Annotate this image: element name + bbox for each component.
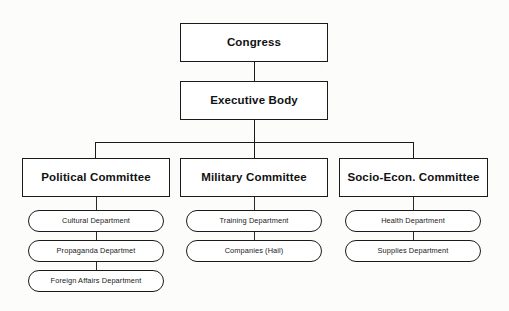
- connector-military-to-dept-1: [254, 196, 255, 211]
- node-training-department-label: Training Department: [216, 217, 293, 225]
- node-companies-hail[interactable]: Companies (Hail): [186, 240, 322, 262]
- node-cultural-department[interactable]: Cultural Department: [28, 210, 164, 232]
- connector-drop-socio-econ: [413, 142, 414, 159]
- node-training-department[interactable]: Training Department: [186, 210, 322, 232]
- connector-drop-political: [95, 142, 96, 159]
- node-health-department[interactable]: Health Department: [345, 210, 481, 232]
- connector-congress-to-executive: [254, 61, 255, 82]
- node-propaganda-department[interactable]: Propaganda Departmet: [28, 240, 164, 262]
- node-executive-body-label: Executive Body: [206, 94, 302, 107]
- node-supplies-department[interactable]: Supplies Department: [345, 240, 481, 262]
- node-socio-econ-committee-label: Socio-Econ. Committee: [343, 171, 483, 184]
- connector-committee-bus: [95, 142, 414, 143]
- node-congress[interactable]: Congress: [180, 23, 328, 62]
- node-congress-label: Congress: [223, 36, 285, 49]
- node-political-committee[interactable]: Political Committee: [22, 158, 170, 197]
- node-health-department-label: Health Department: [377, 217, 449, 225]
- org-chart-canvas: Congress Executive Body Political Commit…: [0, 0, 509, 311]
- node-foreign-affairs-department[interactable]: Foreign Affairs Department: [28, 270, 164, 292]
- node-propaganda-department-label: Propaganda Departmet: [53, 247, 140, 255]
- connector-socio-econ-to-dept-1: [413, 196, 414, 211]
- node-military-committee[interactable]: Military Committee: [180, 158, 328, 197]
- node-executive-body[interactable]: Executive Body: [180, 81, 328, 120]
- node-military-committee-label: Military Committee: [197, 171, 311, 184]
- node-supplies-department-label: Supplies Department: [374, 247, 453, 255]
- node-cultural-department-label: Cultural Department: [58, 217, 134, 225]
- node-foreign-affairs-department-label: Foreign Affairs Department: [47, 277, 146, 285]
- connector-executive-drop: [254, 119, 255, 159]
- node-companies-hail-label: Companies (Hail): [221, 247, 288, 255]
- node-political-committee-label: Political Committee: [37, 171, 155, 184]
- node-socio-econ-committee[interactable]: Socio-Econ. Committee: [339, 158, 488, 197]
- connector-political-to-dept-1: [96, 196, 97, 211]
